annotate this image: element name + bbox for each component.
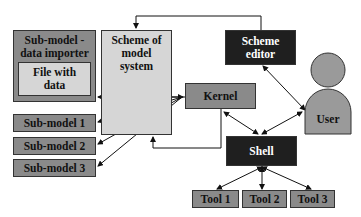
kernel-node: Kernel — [185, 83, 256, 109]
scheme-label-3: system — [111, 60, 161, 73]
tool2-label: Tool 2 — [250, 193, 280, 206]
scheme-label-1: Scheme of — [111, 34, 161, 47]
file-with-data-node: File with data — [18, 62, 91, 96]
user-label: User — [305, 113, 351, 125]
shell-node: Shell — [226, 136, 297, 166]
shell-label: Shell — [249, 145, 273, 158]
file-label-2: data — [33, 79, 76, 92]
edge-editor-scheme — [136, 16, 261, 30]
sub-model-3-node: Sub-model 3 — [13, 159, 96, 177]
tool1-label: Tool 1 — [201, 193, 231, 206]
edge-editor-user — [263, 66, 305, 110]
tool-1-node: Tool 1 — [192, 190, 239, 208]
edge-kernel-shell — [224, 112, 258, 134]
edge-shell-tool1 — [217, 167, 262, 189]
edge-shell-user — [262, 112, 302, 134]
tool3-label: Tool 3 — [298, 193, 328, 206]
importer-label-1: Sub-model - — [20, 34, 89, 47]
edge-shell-tool3 — [262, 167, 311, 189]
tool-2-node: Tool 2 — [242, 190, 287, 208]
sub3-label: Sub-model 3 — [24, 162, 86, 175]
sub1-label: Sub-model 1 — [24, 117, 86, 130]
kernel-label: Kernel — [204, 90, 238, 103]
editor-label-2: editor — [242, 48, 280, 61]
editor-label-1: Scheme — [242, 35, 280, 48]
sub-model-2-node: Sub-model 2 — [13, 137, 96, 155]
scheme-label-2: model — [111, 47, 161, 60]
file-label-1: File with — [33, 66, 76, 79]
scheme-editor-node: Scheme editor — [225, 30, 296, 65]
sub-model-1-node: Sub-model 1 — [13, 114, 96, 132]
sub2-label: Sub-model 2 — [24, 140, 86, 153]
importer-label-2: data importer — [20, 47, 89, 60]
tool-3-node: Tool 3 — [290, 190, 335, 208]
scheme-of-model-system-node: Scheme of model system — [101, 30, 172, 135]
